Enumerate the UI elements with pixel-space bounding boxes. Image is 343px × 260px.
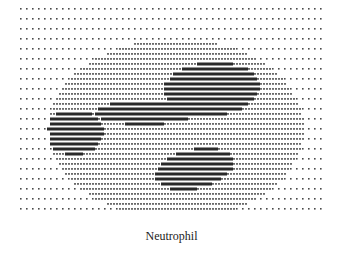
- dot-matrix-canvas: [0, 0, 343, 215]
- figure-caption: Neutrophil: [0, 229, 343, 244]
- dot-grid: [20, 8, 322, 210]
- neutrophil-halftone-image: [0, 0, 343, 215]
